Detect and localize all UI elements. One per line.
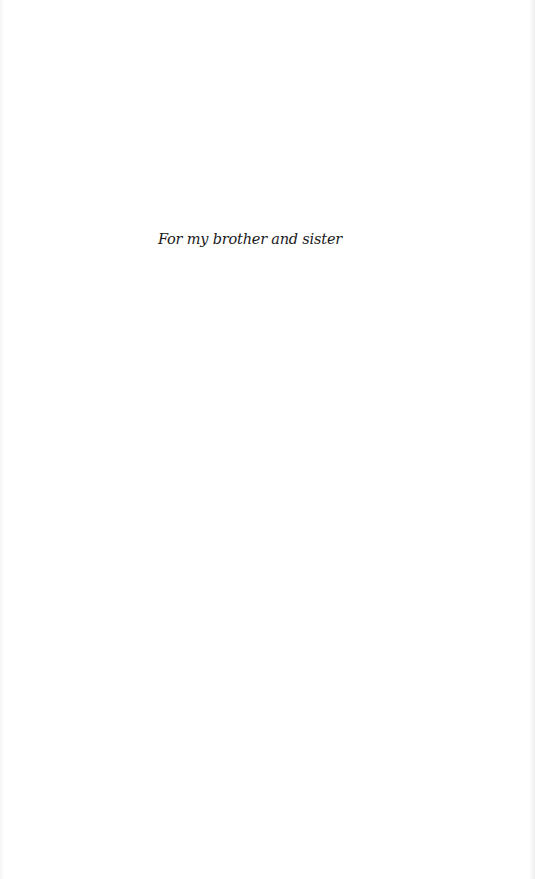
page-right-edge: [529, 0, 535, 879]
dedication-text: For my brother and sister: [0, 229, 500, 249]
page-left-edge: [0, 0, 4, 879]
book-page: For my brother and sister: [0, 0, 535, 879]
